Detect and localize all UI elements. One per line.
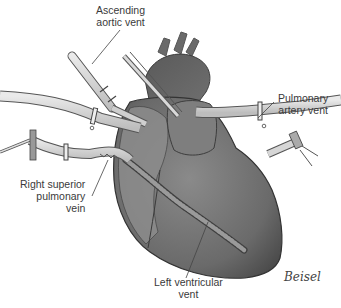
label-line: aortic vent [96,16,145,28]
tube-tie [64,144,68,160]
right-clamp-assembly [268,131,318,166]
aortic-arch-branches [158,32,199,56]
label-ascending-aortic-vent: Ascending aortic vent [96,4,145,28]
illustration-canvas [0,0,341,308]
label-line: Right superior [20,178,85,190]
label-line: vein [20,202,85,214]
label-line: artery vent [278,104,328,116]
right-superior-pulmonary-vein-vent [0,130,130,160]
label-line: Ascending [96,4,145,16]
aorta [145,54,210,104]
label-pulmonary-artery-vent: Pulmonary artery vent [278,92,328,116]
leader-ascending-aortic-vent [92,30,120,64]
tourniquet-clamp [30,130,36,160]
leader-right-superior-pulmonary-vein [92,160,108,196]
label-line: Pulmonary [278,92,328,104]
label-right-superior-pulmonary-vein: Right superior pulmonary vein [20,178,85,214]
label-line: vent [154,288,223,300]
artist-signature: Beisel [284,270,321,284]
label-line: pulmonary [20,190,85,202]
label-line: Left ventricular [154,276,223,288]
heart-vent-illustration: Ascending aortic vent Pulmonary artery v… [0,0,341,308]
label-left-ventricular-vent: Left ventricular vent [154,276,223,300]
